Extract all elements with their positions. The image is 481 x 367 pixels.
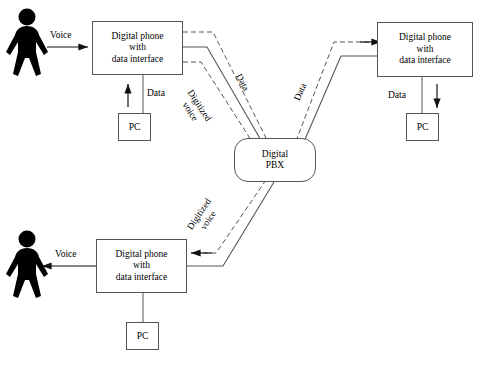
digital-phone-bottom-left[interactable]: Digital phone with data interface <box>96 239 187 293</box>
person-icon <box>6 231 48 299</box>
phone-label-line3: data interface <box>116 272 167 284</box>
phone-label-line2: with <box>129 42 146 54</box>
phone-label-line2: with <box>417 44 434 56</box>
person-icon <box>6 9 48 77</box>
phone-label-line3: data interface <box>399 55 450 67</box>
pc-top-right[interactable]: PC <box>406 113 439 141</box>
digital-phone-top-right[interactable]: Digital phone with data interface <box>377 22 473 77</box>
voice-out-label: Voice <box>55 249 76 259</box>
pc-top-left[interactable]: PC <box>118 113 151 141</box>
digital-pbx[interactable]: Digital PBX <box>234 138 316 182</box>
digital-phone-top-left[interactable]: Digital phone with data interface <box>92 21 183 75</box>
pc-label: PC <box>417 122 429 132</box>
phone-label-line1: Digital phone <box>112 31 164 43</box>
voice-in-label: Voice <box>50 30 71 40</box>
pc-label: PC <box>129 122 141 132</box>
pc-bottom-left[interactable]: PC <box>126 322 159 350</box>
pbx-label-line2: PBX <box>266 160 284 172</box>
data-label-pc-top-right: Data <box>388 90 406 100</box>
phone-label-line1: Digital phone <box>399 32 451 44</box>
phone-label-line3: data interface <box>112 54 163 66</box>
phone-label-line2: with <box>133 260 150 272</box>
pc-label: PC <box>137 331 149 341</box>
diagram-canvas: Digital phone with data interface Digita… <box>0 0 481 367</box>
data-label-pc-top-left: Data <box>147 88 165 98</box>
phone-label-line1: Digital phone <box>116 249 168 261</box>
pbx-label-line1: Digital <box>262 149 288 161</box>
